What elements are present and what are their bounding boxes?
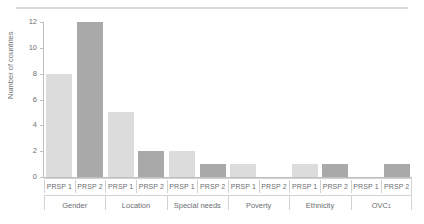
subcategory-label-cell: PRSP 1: [289, 178, 320, 195]
subcategory-label-cell: PRSP 2: [75, 178, 106, 195]
subcategory-label: PRSP 2: [261, 183, 286, 190]
group-label: Location: [122, 202, 150, 210]
group-label-cell: Gender: [44, 195, 105, 216]
subcategory-label: PRSP 2: [77, 183, 102, 190]
cell-separator: [75, 180, 76, 193]
bar: [46, 74, 72, 177]
subcategory-label: PRSP 1: [169, 183, 194, 190]
subcategory-label: PRSP 1: [47, 183, 72, 190]
bar: [322, 164, 348, 177]
subcategory-label-cell: PRSP 1: [351, 178, 382, 195]
subcategory-label: PRSP 1: [108, 183, 133, 190]
y-axis-title: Number of countries: [7, 31, 15, 99]
group-label-cell: Ethnicity: [289, 195, 350, 216]
subcategory-label-cell: PRSP 1: [167, 178, 198, 195]
cell-separator: [136, 180, 137, 193]
subcategory-label-cell: PRSP 2: [259, 178, 290, 195]
y-tick-label: 0: [33, 173, 37, 181]
bar: [200, 164, 226, 177]
group-label-cell: Location: [105, 195, 166, 216]
plot-area: 024681012: [44, 22, 412, 177]
group-label: Special needs: [174, 202, 221, 210]
subcategory-label-cell: PRSP 1: [105, 178, 136, 195]
chart-figure: Number of countries 024681012 PRSP 1PRSP…: [0, 0, 424, 224]
subcategory-label-cell: PRSP 1: [228, 178, 259, 195]
group-label: OVC: [372, 202, 388, 210]
cell-separator: [320, 180, 321, 193]
top-rule-divider: [16, 7, 408, 9]
cell-separator: [105, 195, 106, 210]
bar: [108, 112, 134, 177]
subcategory-label-row: PRSP 1PRSP 2PRSP 1PRSP 2PRSP 1PRSP 2PRSP…: [44, 178, 412, 195]
group-label-cell: OVC1: [351, 195, 412, 216]
subcategory-label: PRSP 1: [231, 183, 256, 190]
bar: [169, 151, 195, 177]
subcategory-label-cell: PRSP 1: [44, 178, 75, 195]
bar: [292, 164, 318, 177]
subcategory-label: PRSP 2: [200, 183, 225, 190]
y-tick-label: 2: [33, 147, 37, 155]
subcategory-label-cell: PRSP 2: [136, 178, 167, 195]
cell-separator: [259, 180, 260, 193]
group-label-cell: Poverty: [228, 195, 289, 216]
bar: [77, 22, 103, 177]
subcategory-label-cell: PRSP 2: [197, 178, 228, 195]
cell-separator: [197, 180, 198, 193]
bar: [230, 164, 256, 177]
group-label: Ethnicity: [306, 202, 334, 210]
cell-separator: [228, 180, 229, 193]
cell-separator: [167, 195, 168, 210]
cell-separator: [228, 195, 229, 210]
y-tick-label: 10: [29, 44, 37, 52]
subcategory-label-cell: PRSP 2: [320, 178, 351, 195]
subcategory-label: PRSP 2: [384, 183, 409, 190]
cell-separator: [44, 180, 45, 193]
cell-separator: [351, 180, 352, 193]
group-label: Poverty: [246, 202, 271, 210]
group-label: Gender: [62, 202, 87, 210]
cell-separator: [167, 180, 168, 193]
y-tick-label: 4: [33, 122, 37, 130]
cell-separator: [105, 180, 106, 193]
subcategory-label: PRSP 1: [292, 183, 317, 190]
cell-separator: [44, 195, 45, 210]
y-tick-label: 8: [33, 70, 37, 78]
y-tick-label: 6: [33, 96, 37, 104]
subcategory-label-cell: PRSP 2: [381, 178, 412, 195]
bar-series-container: [44, 22, 412, 177]
y-tick-label: 12: [29, 18, 37, 26]
category-label-band: PRSP 1PRSP 2PRSP 1PRSP 2PRSP 1PRSP 2PRSP…: [44, 178, 412, 216]
bar: [138, 151, 164, 177]
subcategory-label: PRSP 1: [353, 183, 378, 190]
group-label-cell: Special needs: [167, 195, 228, 216]
cell-separator: [289, 195, 290, 210]
cell-separator: [289, 180, 290, 193]
subcategory-label: PRSP 2: [139, 183, 164, 190]
cell-separator: [351, 195, 352, 210]
subcategory-label: PRSP 2: [323, 183, 348, 190]
cell-separator: [381, 180, 382, 193]
bar: [384, 164, 410, 177]
group-label-row: GenderLocationSpecial needsPovertyEthnic…: [44, 195, 412, 216]
